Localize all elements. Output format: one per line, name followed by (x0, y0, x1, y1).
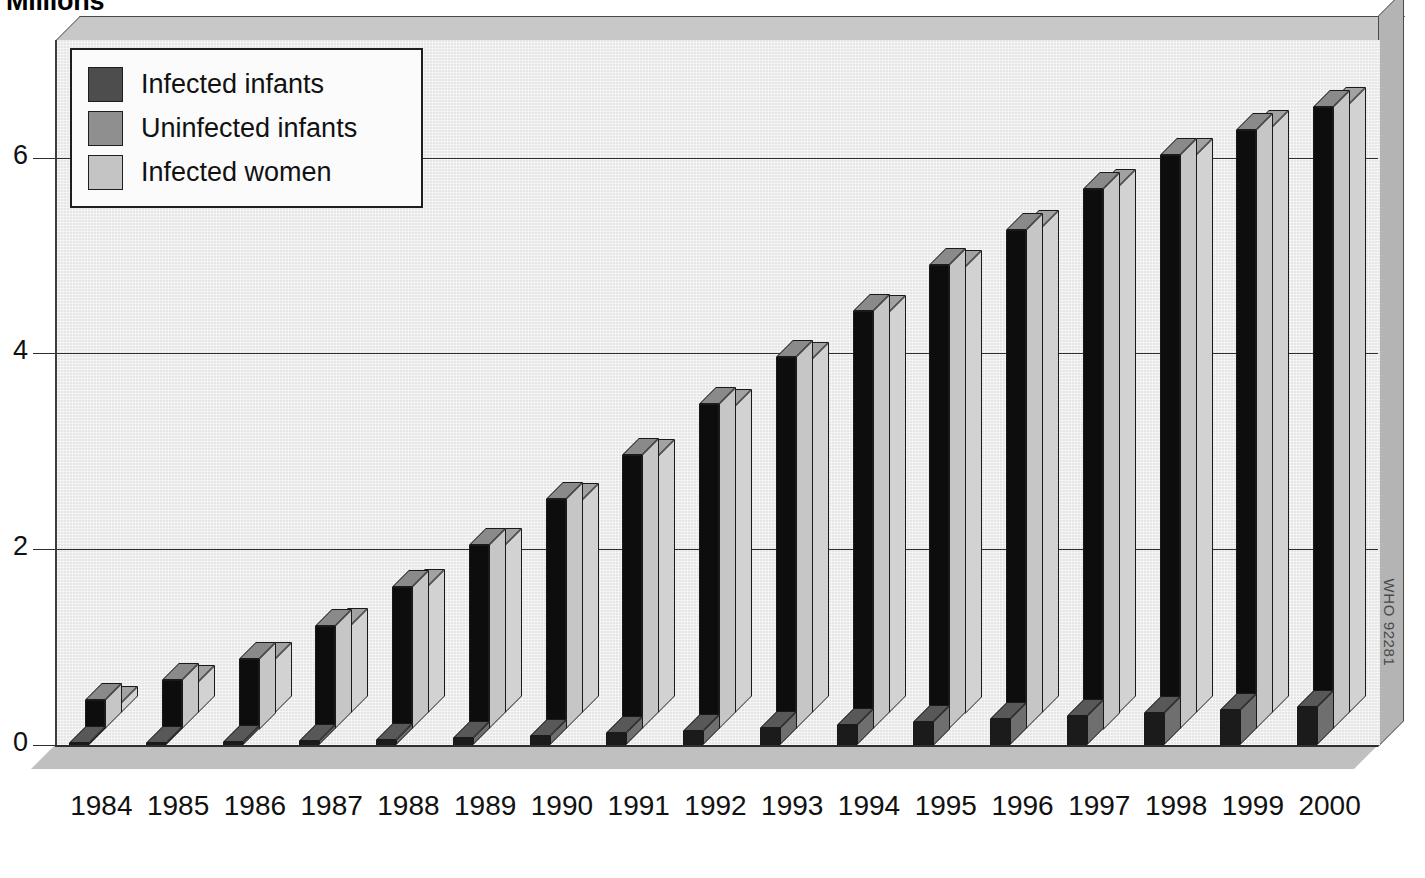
x-axis-label-2000: 2000 (1281, 790, 1378, 822)
bar-front-face (1160, 155, 1180, 729)
bar-side-face (1042, 210, 1059, 713)
bar-1996-infected-infants (990, 719, 1010, 745)
bar-1988-infected-infants (376, 740, 396, 745)
bar-front-face (776, 357, 796, 729)
who-credit-label: WHO 92281 (1381, 579, 1398, 719)
bar-front-face (760, 728, 780, 745)
bar-side-face (1180, 138, 1197, 729)
bar-1997-uninfected-infants (1083, 189, 1103, 730)
bar-front-face (1144, 713, 1164, 745)
bar-side-face (719, 387, 736, 729)
bar-front-face (223, 742, 243, 745)
bar-1994-infected-infants (837, 725, 857, 745)
bar-side-face (642, 438, 659, 729)
bar-side-face (505, 528, 522, 713)
legend-item-infected_infants[interactable]: Infected infants (88, 62, 407, 106)
plot-floor (31, 745, 1378, 769)
bar-side-face (965, 250, 982, 714)
bar-side-face (1349, 87, 1366, 713)
bar-1988-uninfected-infants (392, 587, 412, 729)
bar-front-face (1067, 716, 1087, 745)
bar-front-face (990, 719, 1010, 745)
y-tick-0 (33, 745, 57, 746)
bar-side-face (582, 483, 599, 713)
bar-front-face (469, 545, 489, 729)
bar-1984-infected-infants (69, 743, 89, 745)
bar-front-face (392, 587, 412, 729)
bar-front-face (1236, 130, 1256, 729)
bar-front-face (683, 731, 703, 745)
bar-side-face (889, 295, 906, 713)
bar-side-face (412, 570, 429, 729)
bar-front-face (1313, 107, 1333, 729)
bar-front-face (929, 265, 949, 729)
bar-1999-uninfected-infants (1236, 130, 1256, 729)
legend-swatch-icon-infected_women (88, 155, 123, 190)
bar-side-face (1333, 90, 1350, 729)
gridline-0 (55, 745, 1378, 747)
bar-1995-infected-infants (913, 722, 933, 746)
bar-front-face (913, 722, 933, 746)
bar-side-face (873, 294, 890, 729)
bar-1998-infected-infants (1144, 713, 1164, 745)
bar-1989-infected-infants (453, 738, 473, 745)
page-title: Millions (6, 0, 104, 17)
bar-front-face (85, 700, 105, 729)
bar-side-face (335, 609, 352, 729)
chart-plot-area: 0246 19841985198619871988198919901991199… (0, 0, 1425, 878)
bar-side-face (428, 569, 445, 713)
y-axis-line (55, 40, 57, 745)
y-axis-label-2: 2 (0, 531, 28, 562)
bar-1992-uninfected-infants (699, 404, 719, 729)
legend-item-infected_women[interactable]: Infected women (88, 150, 407, 194)
bar-1984-uninfected-infants (85, 700, 105, 729)
bar-front-face (546, 499, 566, 729)
y-tick-4 (33, 353, 57, 354)
bar-side-face (566, 482, 583, 729)
bar-side-face (812, 342, 829, 713)
bar-front-face (606, 733, 626, 745)
legend-swatch-icon-infected_infants (88, 67, 123, 102)
bar-side-face (351, 608, 368, 713)
bar-front-face (622, 455, 642, 729)
bar-2000-uninfected-infants (1313, 107, 1333, 729)
bar-front-face (1006, 230, 1026, 729)
bar-front-face (69, 743, 89, 745)
bar-front-face (699, 404, 719, 729)
bar-front-face (299, 741, 319, 745)
bar-1986-infected-infants (223, 742, 243, 745)
bar-side-face (489, 528, 506, 729)
bar-1992-infected-infants (683, 731, 703, 745)
bar-1996-uninfected-infants (1006, 230, 1026, 729)
bar-front-face (162, 680, 182, 729)
bar-1986-uninfected-infants (239, 659, 259, 730)
bar-side-face (949, 248, 966, 729)
plot-box-top-wall (55, 16, 1405, 41)
bar-1993-uninfected-infants (776, 357, 796, 729)
bar-front-face (146, 743, 166, 745)
legend-item-uninfected_infants[interactable]: Uninfected infants (88, 106, 407, 150)
legend-label-infected_infants: Infected infants (141, 71, 324, 98)
bar-1994-uninfected-infants (853, 311, 873, 729)
bar-side-face (1256, 113, 1273, 729)
y-tick-6 (33, 158, 57, 159)
bar-2000-infected-infants (1297, 707, 1317, 745)
bar-1990-uninfected-infants (546, 499, 566, 729)
bar-front-face (239, 659, 259, 730)
bar-side-face (1103, 172, 1120, 730)
legend-swatch-icon-uninfected_infants (88, 111, 123, 146)
bar-1990-infected-infants (530, 736, 550, 745)
bar-1987-infected-infants (299, 741, 319, 745)
y-axis-label-4: 4 (0, 335, 28, 366)
bar-front-face (1083, 189, 1103, 730)
bar-side-face (1026, 213, 1043, 729)
bar-side-face (735, 389, 752, 713)
bar-front-face (1297, 707, 1317, 745)
chart-legend: Infected infantsUninfected infantsInfect… (70, 48, 423, 208)
bar-side-face (1119, 169, 1136, 713)
bar-1991-infected-infants (606, 733, 626, 745)
bar-front-face (1220, 710, 1240, 745)
bar-side-face (1272, 110, 1289, 713)
bar-front-face (315, 626, 335, 729)
bar-front-face (530, 736, 550, 745)
